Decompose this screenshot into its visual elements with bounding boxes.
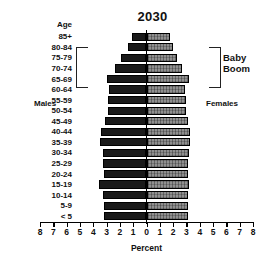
bar-female-2024	[147, 170, 188, 178]
age-label-2024: 20-24	[0, 170, 72, 179]
x-axis-tick	[107, 222, 108, 227]
bar-male-1519	[99, 180, 147, 188]
x-axis-tick	[133, 222, 134, 227]
baby-boom-annotation: Baby Boom	[223, 52, 250, 74]
age-label-3539: 35-39	[0, 138, 72, 147]
x-axis-tick	[200, 222, 201, 227]
bar-male-4549	[105, 117, 146, 125]
bar-male-6064	[109, 85, 146, 93]
age-label-59: 5-9	[0, 201, 72, 210]
baby-boom-line2: Boom	[223, 63, 250, 74]
x-axis-tick	[80, 222, 81, 227]
age-label-8084: 80-84	[0, 43, 72, 52]
bar-male-2529	[103, 159, 147, 167]
baby-boom-bracket-right	[209, 47, 221, 88]
bar-female-5	[147, 212, 188, 220]
bar-male-3034	[103, 149, 147, 157]
age-label-6569: 65-69	[0, 75, 72, 84]
age-label-7074: 70-74	[0, 64, 72, 73]
x-axis-tick	[173, 222, 174, 227]
x-axis-tick	[160, 222, 161, 227]
bar-female-1014	[147, 191, 188, 199]
x-axis-tick	[226, 222, 227, 227]
bar-female-6569	[147, 75, 190, 83]
age-label-7579: 75-79	[0, 53, 72, 62]
bar-male-7579	[121, 54, 146, 62]
age-label-5: < 5	[0, 212, 72, 221]
bar-male-3539	[100, 138, 147, 146]
age-label-2529: 25-29	[0, 159, 72, 168]
series-label-females: Females	[206, 99, 238, 108]
bar-male-5	[104, 212, 147, 220]
x-axis-tick	[67, 222, 68, 227]
bar-male-8084	[128, 43, 147, 51]
bar-female-85+	[147, 33, 171, 41]
age-label-6064: 60-64	[0, 85, 72, 94]
bar-male-2024	[104, 170, 147, 178]
bar-female-59	[147, 202, 188, 210]
age-label-4549: 45-49	[0, 117, 72, 126]
bar-female-2529	[147, 159, 188, 167]
bar-male-7074	[115, 64, 147, 72]
bar-female-4044	[147, 128, 191, 136]
age-label-4044: 40-44	[0, 127, 72, 136]
age-label-85+: 85+	[0, 32, 72, 41]
baby-boom-bracket-left	[76, 47, 88, 88]
x-axis-tick	[186, 222, 187, 227]
bar-female-3539	[147, 138, 191, 146]
age-label-1014: 10-14	[0, 191, 72, 200]
x-axis-tick	[240, 222, 241, 227]
bar-female-1519	[147, 180, 190, 188]
x-axis-tick-label: 8	[244, 227, 262, 237]
x-axis-tick	[53, 222, 54, 227]
age-label-1519: 15-19	[0, 180, 72, 189]
bar-male-59	[104, 202, 147, 210]
bar-male-5559	[108, 96, 147, 104]
x-axis-tick	[147, 222, 148, 227]
bar-female-8084	[147, 43, 174, 51]
bar-male-5054	[108, 107, 147, 115]
x-axis-title: Percent	[40, 243, 253, 253]
bar-female-6064	[147, 85, 186, 93]
x-axis-tick	[213, 222, 214, 227]
bar-female-7074	[147, 64, 183, 72]
bar-male-85+	[132, 33, 147, 41]
baby-boom-line1: Baby	[223, 52, 250, 63]
x-axis-tick	[93, 222, 94, 227]
x-axis-tick	[40, 222, 41, 227]
bar-male-1014	[103, 191, 147, 199]
bar-male-4044	[101, 128, 146, 136]
x-axis-tick	[120, 222, 121, 227]
age-label-5559: 55-59	[0, 96, 72, 105]
age-axis-header: Age	[0, 20, 72, 29]
age-label-5054: 50-54	[0, 106, 72, 115]
age-label-3034: 30-34	[0, 148, 72, 157]
bar-female-5559	[147, 96, 187, 104]
bar-female-7579	[147, 54, 178, 62]
x-axis-tick	[253, 222, 254, 227]
bar-female-4549	[147, 117, 188, 125]
bar-male-6569	[107, 75, 147, 83]
bar-female-5054	[147, 107, 187, 115]
bar-female-3034	[147, 149, 190, 157]
population-pyramid-chart: 2030 Age Percent Males Females Baby Boom…	[0, 0, 279, 261]
